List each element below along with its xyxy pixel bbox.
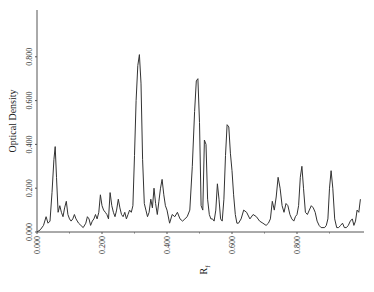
y-axis: 0.0000.2000.4000.6000.800 <box>25 10 37 241</box>
x-axis-title-sub: f <box>204 265 212 268</box>
x-tick-label: 0.600 <box>228 236 237 254</box>
svg-text:Rf: Rf <box>198 265 212 275</box>
x-tick-label: 0.400 <box>163 236 172 254</box>
x-tick-label: 0.000 <box>33 236 42 254</box>
y-tick-label: 0.200 <box>25 179 34 197</box>
x-axis-title: Rf <box>198 265 212 275</box>
x-tick-label: 0.800 <box>293 236 302 254</box>
y-tick-label: 0.800 <box>25 48 34 66</box>
data-line <box>37 55 360 232</box>
x-tick-label: 0.200 <box>98 236 107 254</box>
densitometer-chart: 0.0000.2000.4000.6000.800 0.0000.2000.40… <box>0 0 374 292</box>
x-axis: 0.0000.2000.4000.6000.800 <box>33 232 364 254</box>
y-tick-label: 0.600 <box>25 92 34 110</box>
y-axis-title: Optical Density <box>7 89 18 152</box>
y-tick-label: 0.400 <box>25 135 34 153</box>
